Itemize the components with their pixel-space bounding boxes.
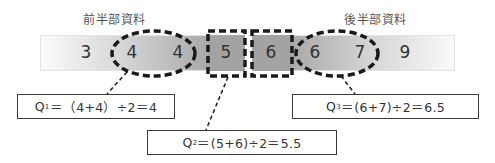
data-value: 6 [261, 42, 281, 62]
q1-expression: ＝（4+4）÷2＝4 [50, 97, 158, 116]
data-value: 3 [76, 42, 96, 62]
q3-connector [341, 76, 355, 94]
data-value: 9 [395, 42, 415, 62]
first-half-label: 前半部資料 [83, 10, 146, 27]
data-value: 5 [216, 42, 236, 62]
q2-expression: ＝(5+6)÷2＝5.5 [197, 133, 301, 152]
data-value: 4 [168, 42, 188, 62]
median-gap [245, 35, 252, 71]
q2-connector [206, 77, 228, 130]
data-value: 6 [305, 42, 325, 62]
q1-symbol: Q [35, 99, 45, 114]
data-value: 7 [350, 42, 370, 62]
q3-formula-box: Q3＝(6+7)÷2＝6.5 [292, 94, 479, 119]
second-half-label: 後半部資料 [344, 10, 407, 27]
q3-expression: ＝(6+7)÷2＝6.5 [341, 97, 445, 116]
q1-connector [107, 72, 127, 94]
q2-formula-box: Q2＝(5+6)÷2＝5.5 [147, 130, 337, 155]
q1-formula-box: Q1＝（4+4）÷2＝4 [17, 94, 175, 119]
q3-symbol: Q [326, 99, 336, 114]
q2-symbol: Q [183, 135, 193, 150]
data-value: 4 [122, 42, 142, 62]
